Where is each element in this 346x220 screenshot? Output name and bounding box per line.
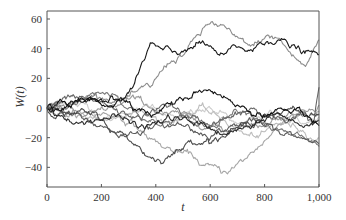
x-axis-label: t: [181, 200, 185, 214]
x-tick-label: 0: [44, 191, 50, 203]
y-tick-label: −40: [25, 161, 43, 173]
y-axis-label: W(t): [13, 86, 27, 107]
y-tick-label: 0: [37, 102, 43, 114]
x-tick-label: 200: [93, 191, 110, 203]
y-tick-label: −20: [25, 132, 43, 144]
x-tick-label: 600: [202, 191, 219, 203]
brownian-motion-chart: 02004006008001,000 −40−200204060 t W(t): [0, 0, 346, 220]
x-tick-label: 800: [256, 191, 273, 203]
x-tick-label: 400: [148, 191, 165, 203]
y-tick-label: 60: [31, 13, 43, 25]
plot-lines: [47, 22, 319, 174]
y-tick-label: 40: [31, 43, 43, 55]
y-tick-label: 20: [31, 72, 43, 84]
x-tick-label: 1,000: [307, 191, 332, 203]
y-ticks: −40−200204060: [25, 13, 50, 173]
